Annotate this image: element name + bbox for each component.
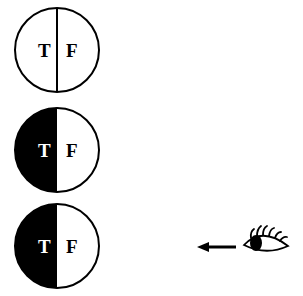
circle-1: T F — [15, 8, 99, 92]
diagram-canvas: T F T F T F — [0, 0, 303, 296]
circle-2: T F — [15, 108, 99, 192]
circle-2-left-label: T — [38, 140, 51, 161]
circle-3: T F — [15, 204, 99, 288]
eye-icon — [244, 226, 288, 251]
circle-1-right-label: F — [66, 40, 78, 61]
circle-3-right-label: F — [66, 236, 78, 257]
circle-2-right-label: F — [66, 140, 78, 161]
arrow-left-icon — [197, 242, 236, 252]
circle-1-left-label: T — [38, 40, 51, 61]
circle-3-left-label: T — [38, 236, 51, 257]
